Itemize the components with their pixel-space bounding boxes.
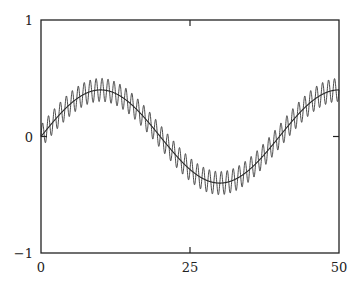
series-layer bbox=[41, 78, 339, 194]
tick-labels: 02550−101 bbox=[14, 13, 347, 275]
axis-ticks bbox=[41, 20, 339, 253]
plot-frame bbox=[41, 20, 339, 253]
y-tick-label: 1 bbox=[25, 13, 33, 28]
y-tick-label: −1 bbox=[14, 246, 33, 261]
y-tick-label: 0 bbox=[25, 130, 33, 145]
x-tick-label: 25 bbox=[182, 260, 199, 275]
chart: 02550−101 bbox=[0, 0, 362, 288]
line-chart: 02550−101 bbox=[0, 0, 362, 288]
x-tick-label: 0 bbox=[37, 260, 45, 275]
rippled-sine-line bbox=[41, 78, 339, 194]
x-tick-label: 50 bbox=[331, 260, 348, 275]
